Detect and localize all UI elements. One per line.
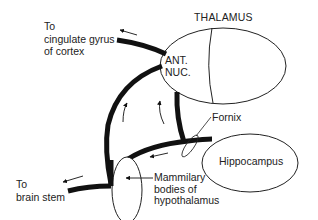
- mammillary-label: Mammilary bodies of hypothalamus: [154, 172, 219, 207]
- fornix-pathway: [128, 139, 212, 159]
- fornix-leader: [196, 117, 211, 136]
- nuc-line: NUC.: [165, 67, 191, 79]
- brain-stem-line2: brain stem: [16, 191, 65, 204]
- cingulate-line1: To: [44, 20, 115, 33]
- hippocampus-label: Hippocampus: [219, 156, 283, 168]
- ant-line: ANT.: [165, 55, 191, 67]
- thalamus-label: THALAMUS: [194, 12, 253, 24]
- cingulate-line3: of cortex: [44, 45, 115, 58]
- anterior-nucleus-label: ANT. NUC.: [165, 55, 191, 78]
- fornix-label: Fornix: [212, 112, 241, 124]
- arrow-brain-stem-icon: [63, 176, 83, 182]
- mammillary-line1: Mammilary: [154, 172, 219, 184]
- arrow-fornix-left-icon: [150, 153, 168, 157]
- arrow-up-left-icon: [123, 103, 127, 122]
- arrow-to-cingulate-icon: [120, 30, 137, 35]
- cingulate-label: To cingulate gyrus of cortex: [44, 20, 115, 58]
- cingulate-line2: cingulate gyrus: [44, 33, 115, 46]
- cingulate-pathway: [117, 40, 166, 54]
- arrow-up-right-icon: [160, 101, 165, 124]
- brain-stem-line1: To: [16, 178, 65, 191]
- brain-stem-pathway: [68, 186, 111, 191]
- mammillary-bodies-shape: [112, 157, 142, 220]
- brain-stem-label: To brain stem: [16, 178, 65, 203]
- fornix-branch-to-thalamus: [177, 92, 184, 142]
- mammillary-line3: hypothalamus: [154, 195, 219, 207]
